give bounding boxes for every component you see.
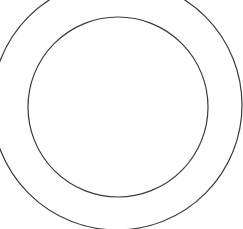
inner-circle (28, 17, 208, 197)
outer-circle (0, 0, 242, 229)
concentric-circles-diagram (0, 0, 243, 229)
